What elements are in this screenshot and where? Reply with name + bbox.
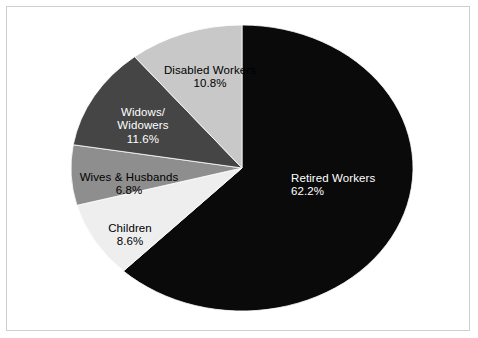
slice-name-disabled-workers: Disabled Workers bbox=[164, 64, 256, 76]
slice-percent-wives-husbands: 6.8% bbox=[67, 184, 191, 198]
pie-chart-figure: Retired Workers 62.2% Disabled Workers 1… bbox=[0, 0, 478, 338]
slice-label-widows-widowers: Widows/ Widowers 11.6% bbox=[100, 92, 186, 160]
slice-name-widows-widowers: Widows/ Widowers bbox=[117, 106, 168, 132]
slice-label-children: Children 8.6% bbox=[86, 208, 174, 262]
slice-name-retired-workers: Retired Workers bbox=[291, 172, 375, 184]
slice-name-children: Children bbox=[108, 222, 152, 234]
slice-percent-disabled-workers: 10.8% bbox=[150, 77, 270, 91]
slice-percent-widows-widowers: 11.6% bbox=[100, 133, 186, 147]
slice-percent-retired-workers: 62.2% bbox=[291, 185, 375, 199]
slice-percent-children: 8.6% bbox=[86, 235, 174, 249]
slice-label-wives-husbands: Wives & Husbands 6.8% bbox=[67, 157, 191, 211]
slice-name-wives-husbands: Wives & Husbands bbox=[80, 171, 179, 183]
slice-label-retired-workers: Retired Workers 62.2% bbox=[291, 158, 375, 212]
